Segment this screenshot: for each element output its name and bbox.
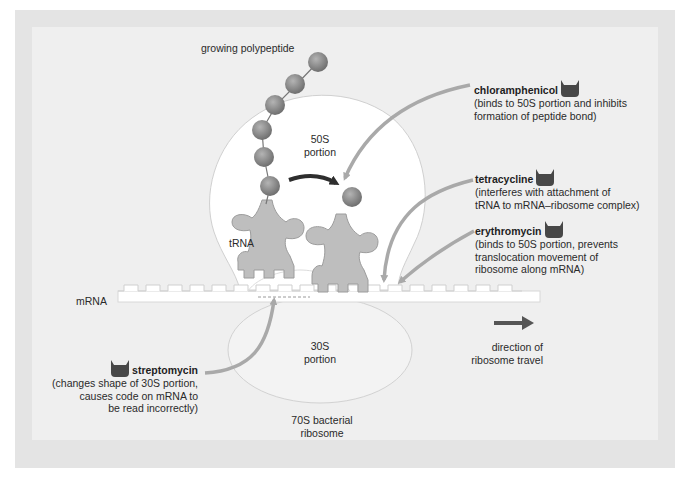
antibiotic-name: streptomycin <box>132 364 198 376</box>
portion-30s-label: 30S portion <box>300 340 340 365</box>
ribosome-70s-label: 70S bacterial ribosome <box>282 414 362 439</box>
amino-acid-bead <box>252 120 272 140</box>
amino-acid-bead <box>265 95 285 115</box>
portion-50s-label: 50S portion <box>300 133 340 158</box>
amino-acid-bead <box>342 187 362 207</box>
amino-acid-bead <box>260 176 280 196</box>
mrna-label: mRNA <box>76 295 107 308</box>
antibiotic-erythromycin: erythromycin (binds to 50S portion, prev… <box>475 221 618 276</box>
antibiotic-name: chloramphenicol <box>474 84 558 96</box>
direction-label: direction of ribosome travel <box>465 341 543 366</box>
antibiotic-tetracycline: tetracycline (interferes with attachment… <box>475 169 640 211</box>
antibiotic-cup-icon <box>536 169 554 186</box>
antibiotic-cup-icon <box>111 360 129 377</box>
trna-label: tRNA <box>229 237 254 250</box>
direction-arrow-icon <box>494 316 534 330</box>
antibiotic-cup-icon <box>545 221 563 238</box>
amino-acid-bead <box>285 74 305 94</box>
antibiotic-cup-icon <box>561 80 579 97</box>
antibiotic-streptomycin: streptomycin (changes shape of 30S porti… <box>40 360 198 415</box>
antibiotic-name: erythromycin <box>475 225 542 237</box>
amino-acid-bead <box>308 52 328 72</box>
growing-polypeptide-label: growing polypeptide <box>201 42 294 55</box>
antibiotic-chloramphenicol: chloramphenicol (binds to 50S portion an… <box>474 80 627 122</box>
amino-acid-bead <box>254 147 274 167</box>
antibiotic-name: tetracycline <box>475 173 533 185</box>
